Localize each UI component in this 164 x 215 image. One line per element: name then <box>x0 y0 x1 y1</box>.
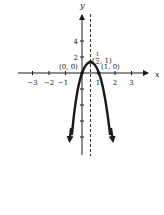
label-vertex: ( 1 2 , 1) <box>92 51 112 65</box>
x-tick-label: −3 <box>27 79 37 87</box>
svg-text:1: 1 <box>96 51 100 57</box>
y-tick-label: 2 <box>74 54 78 62</box>
x-tick-label: 1 <box>96 79 100 87</box>
label-origin: (0, 0) <box>59 63 78 71</box>
x-tick-label: 3 <box>129 79 133 87</box>
svg-text:(: ( <box>92 57 95 65</box>
y-tick-label: 4 <box>74 38 79 46</box>
svg-text:, 1): , 1) <box>100 57 112 65</box>
point-origin <box>80 71 84 75</box>
point-right-root <box>97 71 101 75</box>
svg-text:2: 2 <box>96 59 100 65</box>
x-tick-label: 2 <box>113 79 117 87</box>
x-axis-label: x <box>155 70 160 79</box>
y-axis-label: y <box>79 1 85 10</box>
parabola-chart: x −3 −2 −1 1 2 3 y 2 4 (0, 0) (1, 0) <box>0 0 164 215</box>
x-tick-label: −2 <box>44 79 54 87</box>
x-axis: x −3 −2 −1 1 2 3 <box>18 70 160 87</box>
x-tick-label: −1 <box>58 79 68 87</box>
